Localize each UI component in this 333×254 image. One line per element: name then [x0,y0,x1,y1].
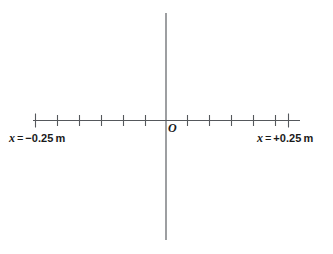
right-label-unit: m [301,132,313,144]
right-label-value: +0.25 [273,132,301,144]
right-label-equals: = [264,132,274,144]
number-line-figure: x=−0.25m x=+0.25m O [0,0,333,254]
x-axis-left-endpoint-label: x=−0.25m [9,132,65,144]
left-label-unit: m [53,132,65,144]
left-label-value: −0.25 [25,132,53,144]
right-label-variable: x [257,131,264,145]
origin-label: O [168,122,177,134]
left-label-equals: = [16,132,26,144]
left-label-variable: x [9,131,16,145]
axes-graphic [0,0,333,254]
x-axis-right-endpoint-label: x=+0.25m [257,132,313,144]
